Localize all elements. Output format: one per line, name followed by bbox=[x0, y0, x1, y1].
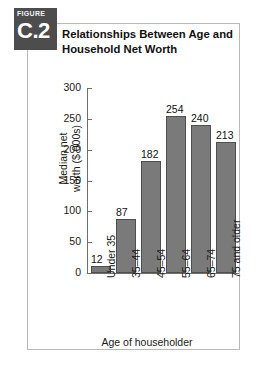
bar-value-label: 87 bbox=[116, 206, 128, 218]
figure-badge-kicker: FIGURE bbox=[17, 10, 57, 18]
y-tick-mark bbox=[88, 273, 92, 274]
y-tick-label: 300 bbox=[63, 81, 81, 93]
figure-badge: FIGURE C.2 bbox=[14, 8, 57, 50]
bar-item[interactable]: 182 bbox=[141, 88, 161, 273]
bar-item[interactable]: 240 bbox=[191, 88, 211, 273]
x-category-label: 55–64 bbox=[180, 249, 192, 278]
figure-title: Relationships Between Age and Household … bbox=[62, 27, 234, 57]
bar-chart: Median net worth ($ 000s) 05010015020025… bbox=[27, 78, 240, 350]
y-tick-label: 150 bbox=[63, 174, 81, 186]
x-axis-label: Age of householder bbox=[67, 336, 227, 348]
y-tick-label: 0 bbox=[75, 266, 81, 278]
bar-value-label: 254 bbox=[166, 103, 184, 115]
plot-area: 050100150200250300 1287182254240213 Unde… bbox=[87, 88, 239, 273]
bar-item[interactable]: 87 bbox=[116, 88, 136, 273]
x-category-label: 65–74 bbox=[205, 249, 217, 278]
figure-title-line-1: Relationships Between Age and bbox=[62, 27, 234, 42]
y-tick-label: 200 bbox=[63, 143, 81, 155]
x-category-label: 35–44 bbox=[130, 249, 142, 278]
bar-item[interactable]: 254 bbox=[166, 88, 186, 273]
y-tick-label: 250 bbox=[63, 112, 81, 124]
figure-c2: FIGURE C.2 Relationships Between Age and… bbox=[0, 0, 270, 382]
bar-value-label: 12 bbox=[91, 253, 103, 265]
x-category-label: 45–54 bbox=[155, 249, 167, 278]
y-tick-label: 100 bbox=[63, 204, 81, 216]
y-axis-label-line-1: Median net bbox=[57, 113, 70, 205]
bar-value-label: 213 bbox=[216, 129, 234, 141]
y-tick: 0 bbox=[87, 273, 92, 274]
x-category-label: Under 35 bbox=[105, 235, 117, 278]
y-tick-label: 50 bbox=[69, 235, 81, 247]
figure-badge-number: C.2 bbox=[17, 19, 57, 42]
y-axis-label: Median net worth ($ 000s) bbox=[57, 113, 82, 205]
y-axis-label-line-2: worth ($ 000s) bbox=[69, 113, 82, 205]
bar-value-label: 240 bbox=[191, 112, 209, 124]
bar-value-label: 182 bbox=[141, 148, 159, 160]
x-category-label: 75 and older bbox=[230, 220, 242, 278]
figure-title-line-2: Household Net Worth bbox=[62, 42, 234, 57]
